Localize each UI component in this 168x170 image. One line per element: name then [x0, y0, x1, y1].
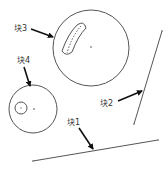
block1-line — [33, 140, 158, 161]
block4-arrow-icon — [24, 67, 30, 86]
block3-slot-centerline — [67, 26, 81, 53]
block1-label: 块1 — [67, 117, 80, 127]
block3-group — [53, 10, 129, 86]
block4-inner-center-dot — [20, 107, 22, 109]
block2-line — [134, 31, 162, 124]
block3-arrow-icon — [31, 29, 53, 37]
block2-arrow-icon — [118, 91, 142, 101]
diagram-canvas: 块3 块4 块2 块1 — [0, 0, 168, 170]
block3-outer-circle — [53, 10, 129, 86]
block1-arrow-icon — [79, 128, 93, 149]
block2-endpoint-bottom — [133, 123, 135, 125]
block1-endpoint-left — [32, 160, 34, 162]
block4-group — [9, 85, 57, 133]
block3-center-dot — [90, 46, 92, 48]
block4-center-dot — [33, 108, 35, 110]
block2-label: 块2 — [100, 98, 113, 108]
block3-arc-slot — [62, 23, 86, 54]
block4-label: 块4 — [17, 55, 30, 65]
block3-label: 块3 — [14, 23, 27, 33]
block1-endpoint-right — [157, 139, 159, 141]
block4-outer-circle — [9, 85, 57, 133]
block2-endpoint-top — [161, 30, 163, 32]
